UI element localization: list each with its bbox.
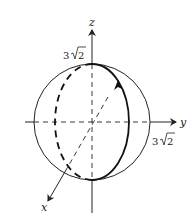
sphere-diagram: z 3 2 y 3 2 x xyxy=(0,0,195,215)
y-tick-label: 3 2 xyxy=(152,133,175,147)
x-axis-label: x xyxy=(41,201,48,214)
svg-text:2: 2 xyxy=(167,136,173,147)
svg-text:3: 3 xyxy=(63,50,69,61)
y-axis-label: y xyxy=(179,116,187,129)
svg-text:2: 2 xyxy=(78,50,84,61)
z-tick-label: 3 2 xyxy=(63,47,86,61)
z-axis-label: z xyxy=(88,16,95,29)
x-axis xyxy=(48,97,108,201)
svg-text:3: 3 xyxy=(152,136,158,147)
